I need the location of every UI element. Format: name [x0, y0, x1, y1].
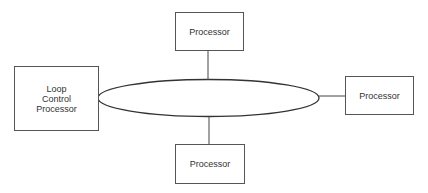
ring-ellipse	[98, 80, 319, 117]
node-label-line: Loop	[46, 84, 66, 94]
node-label-line: Processor	[36, 104, 77, 114]
node-label: Processor	[359, 91, 400, 101]
node-processor-bottom: Processor	[175, 144, 245, 184]
node-loop-control-processor: Loop Control Processor	[14, 66, 99, 131]
node-processor-top: Processor	[175, 12, 244, 51]
node-label-line: Control	[42, 94, 71, 104]
node-processor-right: Processor	[345, 76, 414, 115]
node-label: Processor	[189, 27, 230, 37]
node-label: Processor	[190, 159, 231, 169]
